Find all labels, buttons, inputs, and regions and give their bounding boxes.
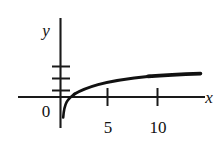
y-axis-label: y xyxy=(40,21,50,40)
origin-label: 0 xyxy=(42,102,51,121)
graph-figure: y x 0 5 10 xyxy=(0,0,223,153)
x-tick-label-5: 5 xyxy=(104,118,113,137)
x-axis-label: x xyxy=(204,88,213,107)
curve-segment-flat xyxy=(148,74,201,77)
graph-canvas: y x 0 5 10 xyxy=(0,0,223,153)
curve-segment-mid xyxy=(74,76,150,94)
x-tick-label-10: 10 xyxy=(150,118,167,137)
